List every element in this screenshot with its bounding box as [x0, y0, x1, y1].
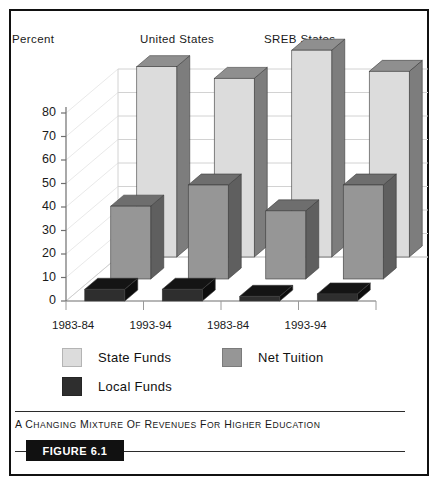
chart-canvas [0, 0, 438, 345]
legend-swatch-state-funds [62, 348, 82, 367]
y-tick-0: 0 [30, 293, 56, 307]
legend-label-net-tuition: Net Tuition [258, 350, 323, 365]
y-tick-80: 80 [30, 105, 56, 119]
x-tick-0-1983-84: 1983-84 [52, 319, 94, 331]
figure-page: Percent United States SREB States 010203… [0, 0, 438, 485]
legend-item-local-funds: Local Funds [62, 377, 172, 396]
bar-net-tuition-1983-84 [266, 200, 319, 279]
bar-local-funds-1993-94 [317, 283, 370, 301]
x-tick-2-1983-84: 1983-84 [207, 319, 249, 331]
x-tick-1-1993-94: 1993-94 [130, 319, 172, 331]
legend-swatch-local-funds [62, 377, 82, 396]
y-tick-60: 60 [30, 152, 56, 166]
bar-net-tuition-1993-94 [188, 174, 241, 279]
legend-label-local-funds: Local Funds [98, 379, 172, 394]
figure-caption: A CHANGING MIXTURE OF REVENUES FOR HIGHE… [15, 418, 405, 430]
y-tick-10: 10 [30, 270, 56, 284]
bar-local-funds-1993-94 [162, 278, 215, 301]
chart-legend: State Funds Net Tuition Local Funds [0, 344, 420, 406]
x-tick-3-1993-94: 1993-94 [285, 319, 327, 331]
y-tick-40: 40 [30, 199, 56, 213]
figure-number-badge: FIGURE 6.1 [26, 440, 124, 461]
caption-divider [15, 411, 405, 412]
bar-local-funds-1983-84 [85, 278, 138, 301]
y-tick-50: 50 [30, 176, 56, 190]
y-tick-30: 30 [30, 223, 56, 237]
bar-net-tuition-1983-84 [111, 195, 164, 279]
legend-label-state-funds: State Funds [98, 350, 171, 365]
legend-swatch-net-tuition [222, 348, 242, 367]
legend-item-state-funds: State Funds [62, 348, 171, 367]
y-tick-70: 70 [30, 129, 56, 143]
bar-local-funds-1983-84 [240, 285, 293, 301]
bar-net-tuition-1993-94 [343, 174, 396, 279]
legend-item-net-tuition: Net Tuition [222, 348, 323, 367]
y-tick-20: 20 [30, 246, 56, 260]
